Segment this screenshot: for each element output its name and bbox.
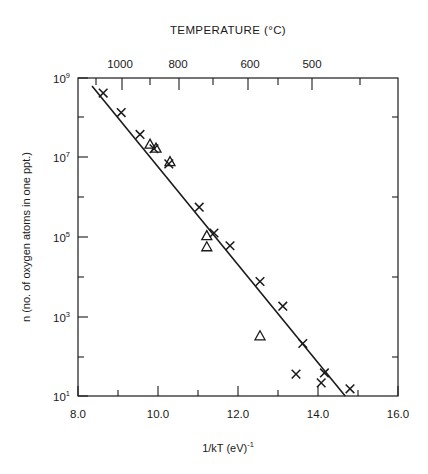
top-axis-title: TEMPERATURE (°C) xyxy=(170,24,286,36)
marker-cross xyxy=(346,385,355,394)
y-axis-tick-labels: 109 107 105 103 101 xyxy=(53,71,70,403)
x-axis-title: 1/kT (eV)-1 xyxy=(202,440,254,454)
top-tick-label-800: 800 xyxy=(168,58,187,70)
marker-cross xyxy=(195,203,204,212)
series-triangles xyxy=(145,139,265,340)
bottom-axis-tick-labels: 8.0 10.0 12.0 14.0 16.0 xyxy=(70,408,409,420)
y-tick-label-1e1: 101 xyxy=(53,389,70,403)
y-tick-label-1e5: 105 xyxy=(53,230,70,244)
marker-cross xyxy=(292,370,301,379)
fit-line xyxy=(92,86,345,396)
plot-frame xyxy=(78,78,398,396)
top-axis-tick-labels: 1000 800 600 500 xyxy=(107,58,321,70)
marker-cross xyxy=(279,302,288,311)
marker-cross xyxy=(299,339,308,348)
y-axis-title: n (no. of oxygen atoms in one ppt.) xyxy=(20,152,32,322)
x-tick-label-12: 12.0 xyxy=(227,408,249,420)
data-layer xyxy=(92,86,354,396)
y-tick-label-1e9: 109 xyxy=(53,71,70,85)
marker-cross xyxy=(256,277,265,286)
top-tick-label-1000: 1000 xyxy=(107,58,133,70)
x-tick-label-10: 10.0 xyxy=(147,408,169,420)
marker-cross xyxy=(117,108,126,117)
series-crosses xyxy=(99,89,354,393)
x-tick-label-8: 8.0 xyxy=(70,408,86,420)
marker-cross xyxy=(317,379,326,388)
x-tick-label-14: 14.0 xyxy=(307,408,329,420)
y-tick-label-1e3: 103 xyxy=(53,310,70,324)
oxygen-precipitate-scatter-chart: TEMPERATURE (°C) 1000 800 600 500 xyxy=(0,0,428,474)
top-axis-ticks xyxy=(96,78,360,90)
top-tick-label-600: 600 xyxy=(240,58,259,70)
left-axis-ticks xyxy=(78,78,88,396)
figure-container: TEMPERATURE (°C) 1000 800 600 500 xyxy=(0,0,428,474)
x-tick-label-16: 16.0 xyxy=(387,408,409,420)
marker-cross xyxy=(136,130,145,139)
marker-triangle xyxy=(202,242,212,251)
top-tick-label-500: 500 xyxy=(302,58,321,70)
right-axis-ticks xyxy=(392,117,398,357)
marker-cross xyxy=(99,89,108,98)
marker-triangle xyxy=(255,331,265,340)
bottom-axis-ticks xyxy=(78,386,398,396)
y-tick-label-1e7: 107 xyxy=(53,150,70,164)
marker-cross xyxy=(226,241,235,250)
